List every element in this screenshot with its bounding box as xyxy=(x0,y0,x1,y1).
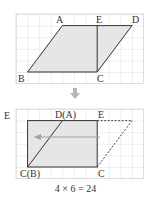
label-c-b: C(B) xyxy=(20,168,40,180)
label-e-top: E xyxy=(98,109,104,120)
top-grid: A E D B C xyxy=(16,14,144,84)
label-e: E xyxy=(96,14,102,25)
area-equation: 4 × 6 = 24 xyxy=(0,183,151,194)
label-c: C xyxy=(98,168,105,179)
label-d-a: D(A) xyxy=(55,109,76,121)
down-arrow-icon xyxy=(70,88,80,99)
rectangle xyxy=(28,121,98,167)
label-a: A xyxy=(56,14,64,25)
label-d: D xyxy=(132,14,139,25)
parallelogram-area-diagram: A E D B C E D(A) E C(B) C xyxy=(0,0,151,209)
label-e-left: E xyxy=(4,110,10,121)
bottom-grid: E D(A) E C(B) C xyxy=(4,109,144,180)
label-c: C xyxy=(97,73,104,84)
label-b: B xyxy=(18,73,25,84)
